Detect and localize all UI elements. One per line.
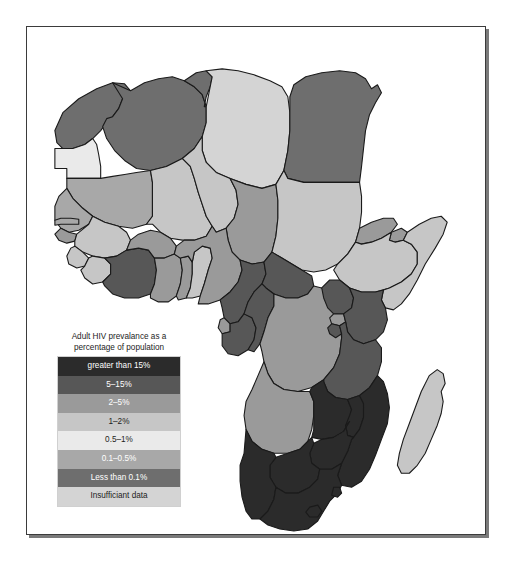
legend-swatch-list: greater than 15%5–15%2–5%1–2%0.5–1%0.1–0… (57, 356, 181, 507)
legend-swatch-label: 1–2% (109, 417, 130, 426)
map-legend: Adult HIV prevalance as a percentage of … (57, 332, 181, 507)
legend-swatch-label: Less than 0.1% (91, 473, 147, 482)
page-root: Adult HIV prevalance as a percentage of … (0, 0, 514, 562)
legend-title-line-2: percentage of population (59, 343, 179, 354)
legend-swatch-label: 5–15% (106, 380, 132, 389)
legend-swatch-7: Insufficiant data (58, 487, 180, 506)
legend-swatch-label: greater than 15% (88, 361, 151, 370)
legend-swatch-5: 0.1–0.5% (58, 450, 180, 469)
country-madagascar[interactable] (397, 370, 445, 474)
legend-title-line-1: Adult HIV prevalance as a (59, 332, 179, 343)
country-gambia[interactable] (55, 218, 79, 225)
legend-swatch-2: 2–5% (58, 394, 180, 413)
legend-swatch-6: Less than 0.1% (58, 469, 180, 488)
country-egypt[interactable] (284, 71, 382, 183)
legend-swatch-3: 1–2% (58, 413, 180, 432)
legend-swatch-label: Insufficiant data (90, 491, 147, 500)
legend-swatch-1: 5–15% (58, 376, 180, 395)
map-frame: Adult HIV prevalance as a percentage of … (26, 26, 486, 535)
legend-swatch-label: 0.1–0.5% (102, 454, 137, 463)
legend-swatch-label: 2–5% (109, 398, 130, 407)
legend-title: Adult HIV prevalance as a percentage of … (57, 332, 181, 356)
country-swaziland[interactable] (332, 487, 342, 497)
legend-swatch-label: 0.5–1% (105, 435, 133, 444)
legend-swatch-4: 0.5–1% (58, 431, 180, 450)
country-libya[interactable] (202, 69, 290, 189)
legend-swatch-0: greater than 15% (58, 357, 180, 376)
